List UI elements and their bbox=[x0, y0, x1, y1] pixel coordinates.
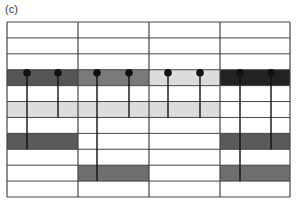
pin-head-icon bbox=[93, 69, 101, 77]
pin-head-icon bbox=[267, 69, 275, 77]
shaded-cell bbox=[220, 133, 290, 149]
pin-head-icon bbox=[196, 69, 204, 77]
shaded-cell bbox=[7, 70, 78, 86]
pin-head-icon bbox=[236, 69, 244, 77]
shaded-cell bbox=[149, 102, 220, 118]
pin-head-icon bbox=[164, 69, 172, 77]
pin-head-icon bbox=[23, 69, 31, 77]
grid-diagram bbox=[0, 0, 296, 203]
shaded-cell bbox=[7, 133, 78, 149]
shaded-cell bbox=[149, 70, 220, 86]
shaded-cell bbox=[78, 102, 149, 118]
pin-head-icon bbox=[54, 69, 62, 77]
shaded-cell bbox=[78, 165, 149, 181]
shaded-cell bbox=[220, 70, 290, 86]
shaded-cell bbox=[7, 102, 78, 118]
pin-head-icon bbox=[125, 69, 133, 77]
shaded-cell bbox=[220, 165, 290, 181]
shaded-cell bbox=[78, 70, 149, 86]
